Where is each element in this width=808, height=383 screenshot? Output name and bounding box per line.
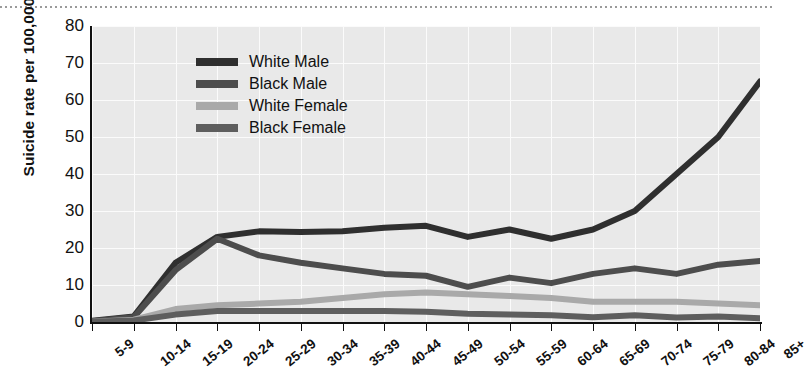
x-axis-tickmark xyxy=(677,322,678,331)
x-axis-tick-55-59: 55-59 xyxy=(533,336,569,369)
legend-item-black-female: Black Female xyxy=(196,118,348,138)
x-axis-tick-45-49: 45-49 xyxy=(449,336,485,369)
x-axis-tick-25-29: 25-29 xyxy=(282,336,318,369)
x-axis-tickmark xyxy=(635,322,636,331)
legend-item-label: White Female xyxy=(249,97,348,115)
legend-item-black-male: Black Male xyxy=(196,74,348,94)
x-axis-tickmark xyxy=(426,322,427,331)
x-axis-tickmark xyxy=(551,322,552,331)
legend-swatch-icon xyxy=(196,102,238,110)
x-axis-tick-80-84: 80-84 xyxy=(742,336,778,369)
legend-item-label: White Male xyxy=(249,53,329,71)
legend-swatch-icon xyxy=(196,80,238,88)
x-axis-tick-15-19: 15-19 xyxy=(199,336,235,369)
x-axis-tick-35-39: 35-39 xyxy=(366,336,402,369)
x-axis-tick-5-9: 5-9 xyxy=(112,336,137,360)
x-axis-tick-60-64: 60-64 xyxy=(575,336,611,369)
x-axis-tick-40-44: 40-44 xyxy=(408,336,444,369)
x-axis-tick-70-74: 70-74 xyxy=(658,336,694,369)
x-axis-tickmark xyxy=(510,322,511,331)
x-axis-tickmark xyxy=(134,322,135,331)
x-axis-tick-85+: 85+ xyxy=(781,336,808,362)
x-axis-tick-50-54: 50-54 xyxy=(491,336,527,369)
x-axis-tick-30-34: 30-34 xyxy=(324,336,360,369)
x-axis-tick-20-24: 20-24 xyxy=(241,336,277,369)
x-axis-tick-65-69: 65-69 xyxy=(616,336,652,369)
legend-item-white-female: White Female xyxy=(196,96,348,116)
legend-swatch-icon xyxy=(196,124,238,132)
legend-item-label: Black Female xyxy=(249,119,346,137)
x-axis-tickmark xyxy=(468,322,469,331)
legend-swatch-icon xyxy=(196,58,238,66)
x-axis-tickmark xyxy=(259,322,260,331)
x-axis-tickmark xyxy=(92,322,93,331)
x-axis-tick-75-79: 75-79 xyxy=(700,336,736,369)
x-axis-tick-10-14: 10-14 xyxy=(157,336,193,369)
legend-item-label: Black Male xyxy=(249,75,327,93)
x-axis-tickmark xyxy=(301,322,302,331)
x-axis-tickmark xyxy=(176,322,177,331)
x-axis-tickmark xyxy=(343,322,344,331)
x-axis-tickmark xyxy=(760,322,761,331)
x-axis-tickmark xyxy=(217,322,218,331)
x-axis-tickmark xyxy=(718,322,719,331)
x-axis-tickmark xyxy=(384,322,385,331)
chart-legend: White MaleBlack MaleWhite FemaleBlack Fe… xyxy=(196,52,348,140)
x-axis-tickmark xyxy=(593,322,594,331)
legend-item-white-male: White Male xyxy=(196,52,348,72)
